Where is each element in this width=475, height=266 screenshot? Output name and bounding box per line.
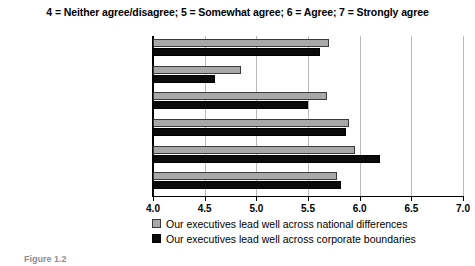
bar bbox=[153, 155, 380, 163]
x-axis-tick-label: 4.5 bbox=[185, 203, 225, 214]
x-axis-tick bbox=[360, 196, 361, 201]
category-group: China bbox=[153, 116, 463, 143]
legend-swatch bbox=[152, 219, 161, 228]
x-axis-tick-label: 5.0 bbox=[236, 203, 276, 214]
bar bbox=[153, 48, 320, 56]
x-axis-tick-label: 4.0 bbox=[133, 203, 173, 214]
legend-label: Our executives lead well across national… bbox=[166, 218, 407, 230]
x-axis-tick-label: 6.5 bbox=[391, 203, 431, 214]
figure-caption: Figure 1.2 bbox=[24, 254, 67, 266]
bar bbox=[153, 101, 308, 109]
x-axis-tick-label: 7.0 bbox=[443, 203, 475, 214]
category-group: UK and Ireland bbox=[153, 36, 463, 63]
legend-item: Our executives lead well across corporat… bbox=[152, 231, 416, 246]
x-axis-tick bbox=[308, 196, 309, 201]
legend-swatch bbox=[152, 234, 161, 243]
gridline bbox=[463, 36, 464, 196]
x-axis-tick bbox=[411, 196, 412, 201]
bar bbox=[153, 75, 215, 83]
chart-figure: 4 = Neither agree/disagree; 5 = Somewhat… bbox=[0, 0, 475, 266]
bar bbox=[153, 172, 337, 180]
chart-title: 4 = Neither agree/disagree; 5 = Somewhat… bbox=[0, 6, 475, 18]
bar bbox=[153, 181, 341, 189]
category-group: India bbox=[153, 143, 463, 170]
plot-area: 4.04.55.05.56.06.57.0UK and IrelandConti… bbox=[152, 36, 463, 197]
category-group: Pacific Rim and Australasia bbox=[153, 89, 463, 116]
legend-label: Our executives lead well across corporat… bbox=[166, 233, 416, 245]
x-axis-tick-label: 6.0 bbox=[340, 203, 380, 214]
bar bbox=[153, 128, 346, 136]
category-group: Continental Europe bbox=[153, 63, 463, 90]
bar bbox=[153, 146, 355, 154]
x-axis-tick bbox=[463, 196, 464, 201]
legend-item: Our executives lead well across national… bbox=[152, 216, 416, 231]
bar bbox=[153, 39, 329, 47]
category-group: US and Canada bbox=[153, 169, 463, 196]
x-axis-tick bbox=[256, 196, 257, 201]
bar bbox=[153, 119, 349, 127]
x-axis-tick-label: 5.5 bbox=[288, 203, 328, 214]
x-axis-tick bbox=[153, 196, 154, 201]
bar bbox=[153, 66, 241, 74]
x-axis-tick bbox=[205, 196, 206, 201]
bar bbox=[153, 92, 327, 100]
chart-legend: Our executives lead well across national… bbox=[152, 216, 416, 246]
